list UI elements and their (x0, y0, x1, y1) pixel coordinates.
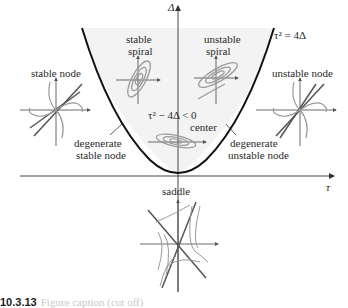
stable-node-label: stable node (31, 68, 81, 79)
degenerate-stable-node-label-2: stable node (76, 150, 126, 161)
center-label: center (190, 122, 217, 133)
degenerate-unstable-node-label-2: unstable node (228, 150, 289, 161)
unstable-node-label: unstable node (272, 68, 333, 79)
stable-spiral-label-1: stable (126, 34, 152, 45)
saddle-phase-portrait (140, 200, 218, 292)
saddle-label: saddle (162, 186, 190, 197)
stable-spiral-label-2: spiral (128, 46, 152, 57)
unstable-node-phase-portrait (256, 78, 336, 146)
stable-node-phase-portrait (20, 78, 90, 146)
curve-label: τ² = 4Δ (274, 30, 306, 41)
tau-axis-label: τ (326, 182, 330, 193)
figure-caption-text: Figure caption (cut off) (41, 296, 144, 308)
degenerate-unstable-node-label-1: degenerate (230, 138, 278, 149)
delta-axis-label: Δ (168, 2, 174, 13)
unstable-spiral-label-1: unstable (204, 34, 241, 45)
region-inequality-label: τ² − 4Δ < 0 (148, 110, 197, 121)
figure-caption: 10.3.13Figure caption (cut off) (0, 296, 143, 308)
figure-number: 10.3.13 (0, 296, 37, 308)
degenerate-stable-node-label-1: degenerate (74, 138, 122, 149)
unstable-spiral-label-2: spiral (206, 46, 230, 57)
